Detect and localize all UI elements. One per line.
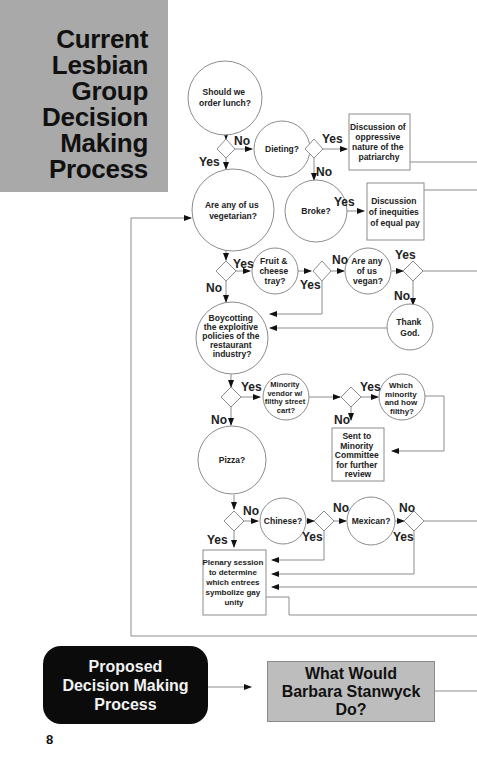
node-text: Should we order lunch? xyxy=(199,87,251,108)
page-number: 8 xyxy=(46,732,53,747)
node-text: Are any of us vegetarian? xyxy=(205,200,261,221)
node-text: Mexican? xyxy=(352,516,391,526)
node-text: Dieting? xyxy=(265,144,299,154)
edge-label: No xyxy=(316,165,332,179)
node-text: Chinese? xyxy=(264,516,302,526)
edge-label: No xyxy=(334,413,350,427)
edge-label: No xyxy=(333,501,349,515)
decision-diamond xyxy=(403,261,423,281)
edge-label: Yes xyxy=(207,533,228,547)
stanwyck-line: Do? xyxy=(268,701,434,719)
proposed-process-node: Proposed Decision Making Process xyxy=(43,646,208,724)
edge-label: Yes xyxy=(322,132,343,146)
decision-diamond xyxy=(221,387,241,407)
decision-diamond xyxy=(224,511,244,531)
edge-label: No xyxy=(394,289,410,303)
node-text: Broke? xyxy=(301,206,330,216)
node-text: Thank God. xyxy=(396,317,423,338)
stanwyck-line: What Would xyxy=(268,665,434,683)
edge-label: No xyxy=(243,504,259,518)
decision-diamond xyxy=(341,387,361,407)
stanwyck-node: What Would Barbara Stanwyck Do? xyxy=(267,661,435,722)
node-text: Pizza? xyxy=(219,455,245,465)
node-text: Discussion of oppressive nature of the p… xyxy=(350,122,408,162)
edge-label: Yes xyxy=(199,155,220,169)
edge-label: Yes xyxy=(300,278,321,292)
edge-label: Yes xyxy=(393,530,414,544)
edge-label: No xyxy=(332,253,348,267)
proposed-line: Process xyxy=(43,695,208,714)
edge-label: Yes xyxy=(334,195,355,209)
edge-label: Yes xyxy=(360,380,381,394)
decision-diamond xyxy=(314,511,334,531)
node-vegetarian xyxy=(192,169,274,251)
stanwyck-line: Barbara Stanwyck xyxy=(268,683,434,701)
edge-label: No xyxy=(234,134,250,148)
edge-label: Yes xyxy=(241,380,262,394)
edge-label: No xyxy=(211,413,227,427)
node-thank-god xyxy=(387,304,433,350)
edge-label: No xyxy=(206,281,222,295)
node-text: Discussion of inequities of equal pay xyxy=(369,196,421,228)
edge-label: Yes xyxy=(233,257,254,271)
edge-label: No xyxy=(399,501,415,515)
proposed-line: Proposed xyxy=(43,657,208,676)
edge-label: Yes xyxy=(395,248,416,262)
proposed-line: Decision Making xyxy=(43,676,208,695)
edge-label: Yes xyxy=(302,530,323,544)
